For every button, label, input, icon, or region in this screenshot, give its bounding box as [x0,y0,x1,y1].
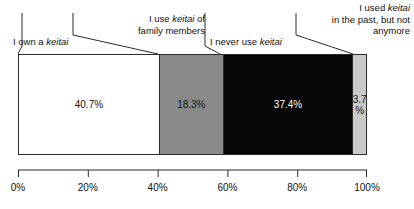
bar-segment-past[interactable]: 3.7 % [352,55,366,154]
callout-past-line2: in the past, but not [306,14,410,26]
bar-segment-own[interactable]: 40.7% [19,55,159,154]
tick-label-40: 40% [148,182,168,194]
x-axis-tick-labels: 0% 20% 40% 60% 80% 100% [18,182,367,198]
bar-segment-never-value: 37.4% [274,99,302,110]
bar-segment-never[interactable]: 37.4% [223,55,353,154]
callout-past-line1: I used keitai [306,2,410,14]
tick-label-100: 100% [354,182,380,194]
callout-past-line3: anymore [306,25,410,37]
bar-segment-own-value: 40.7% [75,99,103,110]
callout-label-past: I used keitai in the past, but not anymo… [306,2,410,37]
callout-past-text-pre: I used [359,2,388,13]
leader-line-never [205,13,220,54]
bar-segment-past-value: 3.7 % [349,94,371,116]
callout-family-line1: I use keitai of [119,13,205,25]
callout-own-text-italic: keitai [46,36,68,47]
callout-family-text-italic: keitai [172,13,194,24]
tick-label-80: 80% [287,182,307,194]
tick-label-60: 60% [217,182,237,194]
bar-segment-family-value: 18.3% [177,99,205,110]
x-axis [0,165,414,181]
callout-label-family: I use keitai of family members [119,13,205,36]
callout-label-own: I own a keitai [13,36,68,48]
callout-label-never: I never use keitai [210,36,282,48]
stacked-bar-chart: I own a keitai I use keitai of family me… [0,0,414,209]
callout-own-text-pre: I own a [13,36,46,47]
bar-segment-family[interactable]: 18.3% [159,55,223,154]
callout-past-text-italic: keitai [388,2,410,13]
callout-family-text-pre: I use [149,13,172,24]
callout-never-text-italic: keitai [260,36,282,47]
callout-family-text-post: of [194,13,205,24]
callout-family-line2: family members [119,25,205,37]
tick-label-0: 0% [11,182,25,194]
callout-never-text-pre: I never use [210,36,260,47]
stacked-bar: 40.7% 18.3% 37.4% 3.7 % [18,54,367,155]
tick-label-20: 20% [78,182,98,194]
leader-line-own [18,13,22,54]
